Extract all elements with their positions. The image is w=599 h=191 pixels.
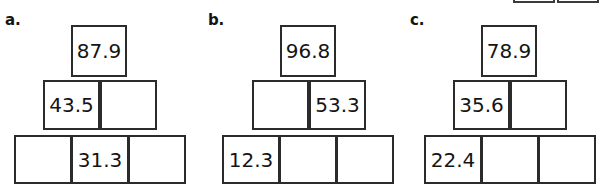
pyramid-c-cell-r2c0[interactable]: 22.4	[424, 135, 482, 184]
pyramid-c-cell-r1c0[interactable]: 35.6	[453, 80, 510, 130]
part-label-c: c.	[410, 13, 424, 28]
pyramid-c-cell-r2c2[interactable]	[538, 135, 596, 184]
pyramid-c-cell-r1c1[interactable]	[510, 80, 567, 130]
pyramid-c-cell-r0c0[interactable]: 78.9	[481, 25, 537, 77]
pyramid-c-cell-r1c0-value: 35.6	[459, 95, 504, 115]
pyramid-c-cell-r2c0-value: 22.4	[431, 150, 476, 170]
pyramid-c-cell-r2c1[interactable]	[481, 135, 539, 184]
pyramid-c-cell-r0c0-value: 78.9	[487, 41, 532, 61]
